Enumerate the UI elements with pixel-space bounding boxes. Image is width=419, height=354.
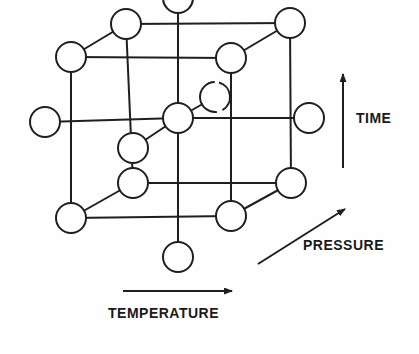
node-top-center <box>163 0 193 13</box>
diagram-canvas: TIME PRESSURE TEMPERATURE <box>0 0 419 354</box>
node-back-bottom-left <box>118 168 148 198</box>
edge-front-top <box>71 57 231 58</box>
axis-label-pressure: PRESSURE <box>303 237 384 253</box>
node-back-top-left <box>111 9 141 39</box>
axis-label-temperature: TEMPERATURE <box>108 305 219 321</box>
node-front-bottom-right <box>216 201 246 231</box>
edge-vert-back-right <box>290 23 291 183</box>
node-bottom-center <box>163 242 193 272</box>
node-back-top-right <box>275 8 305 38</box>
node-body-center <box>163 103 193 133</box>
edge-front-bottom <box>71 216 231 218</box>
node-front-top-left <box>56 42 86 72</box>
node-face-right <box>294 103 324 133</box>
node-face-front-center <box>118 133 148 163</box>
node-front-top-right <box>216 43 246 73</box>
edge-center-horiz-left <box>45 118 178 122</box>
node-front-bottom-left <box>56 203 86 233</box>
node-back-bottom-right <box>276 168 306 198</box>
axis-label-time: TIME <box>356 110 391 126</box>
edge-back-top <box>126 23 290 24</box>
node-face-left <box>30 107 60 137</box>
node-face-back-center-arc-0 <box>219 83 230 110</box>
lattice-svg <box>0 0 419 354</box>
